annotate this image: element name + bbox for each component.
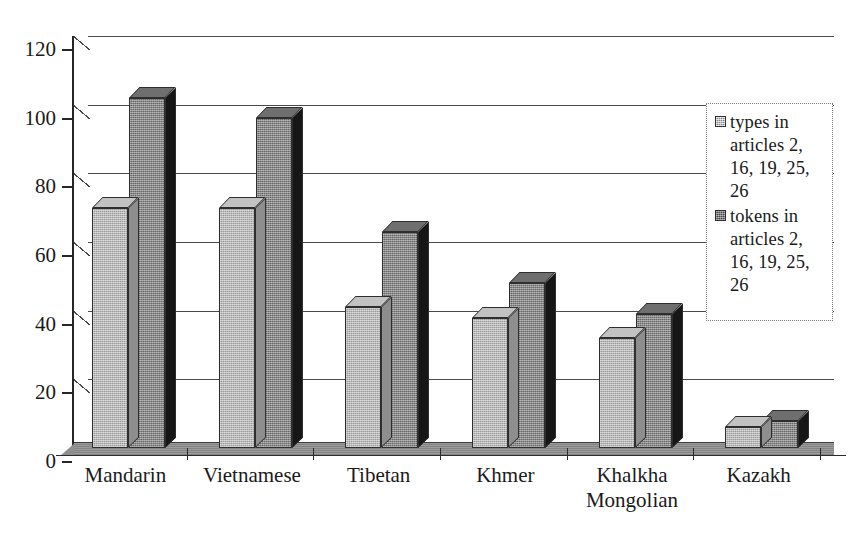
bar-side-face xyxy=(635,328,646,448)
bar-types xyxy=(725,427,761,448)
bar-types xyxy=(472,318,508,448)
x-axis-label-tibetan: Tibetan xyxy=(315,463,442,488)
y-axis-tick-label: 60 xyxy=(0,245,56,266)
y-axis-tick xyxy=(62,49,72,51)
bar-types xyxy=(92,208,128,448)
bar-side-face xyxy=(292,108,303,448)
bar-side-face xyxy=(672,303,683,448)
bar-side-face xyxy=(381,297,392,448)
legend-swatch-types-icon xyxy=(715,116,726,127)
bar-side-face xyxy=(255,197,266,448)
y-axis-tick-label: 0 xyxy=(0,451,56,472)
bar-front-face xyxy=(599,338,635,448)
x-axis-label-khmer: Khmer xyxy=(442,463,569,488)
x-axis-label-vietnamese: Vietnamese xyxy=(189,463,316,488)
x-axis-tick xyxy=(567,448,568,460)
y-axis-tick-label: 80 xyxy=(0,176,56,197)
y-axis-tick-label: 20 xyxy=(0,382,56,403)
y-axis-tick xyxy=(62,324,72,326)
chart-floor xyxy=(74,442,834,456)
bar-side-face xyxy=(418,221,429,448)
bar-front-face xyxy=(725,427,761,448)
bar-front-face xyxy=(219,208,255,448)
bar-front-face xyxy=(92,208,128,448)
y-axis-tick xyxy=(62,255,72,257)
bar-front-face xyxy=(345,307,381,448)
x-axis-tick xyxy=(440,448,441,460)
bar-types xyxy=(599,338,635,448)
y-axis-tick-label: 100 xyxy=(0,108,56,129)
bar-side-face xyxy=(545,273,556,448)
bar-side-face xyxy=(508,307,519,448)
bar-types xyxy=(219,208,255,448)
chart-legend: types in articles 2, 16, 19, 25, 26 toke… xyxy=(706,103,833,321)
bar-chart-figure: 020406080100120 MandarinVietnameseTibeta… xyxy=(0,0,853,534)
bar-front-face xyxy=(472,318,508,448)
y-axis-tick xyxy=(62,118,72,120)
legend-item: tokens in articles 2, 16, 19, 25, 26 xyxy=(715,205,828,297)
x-axis-tick xyxy=(187,448,188,460)
y-axis-tick xyxy=(62,392,72,394)
x-axis-tick xyxy=(693,448,694,460)
bar-side-face xyxy=(165,87,176,448)
y-axis-tick-label: 120 xyxy=(0,39,56,60)
legend-label-tokens: tokens in articles 2, 16, 19, 25, 26 xyxy=(730,205,828,297)
legend-item: types in articles 2, 16, 19, 25, 26 xyxy=(715,111,828,203)
legend-swatch-tokens-icon xyxy=(715,210,726,221)
bar-side-face xyxy=(128,197,139,448)
x-axis-label-kazakh: Kazakh xyxy=(695,463,822,488)
y-axis-tick xyxy=(62,186,72,188)
x-axis-label-khalkha: Khalkha Mongolian xyxy=(569,463,696,513)
bar-types xyxy=(345,307,381,448)
y-axis-tick-label: 40 xyxy=(0,314,56,335)
x-axis-label-mandarin: Mandarin xyxy=(62,463,189,488)
x-axis-tick xyxy=(313,448,314,460)
x-axis-tick xyxy=(820,448,821,460)
legend-label-types: types in articles 2, 16, 19, 25, 26 xyxy=(730,111,828,203)
chart-baseline xyxy=(56,455,846,456)
